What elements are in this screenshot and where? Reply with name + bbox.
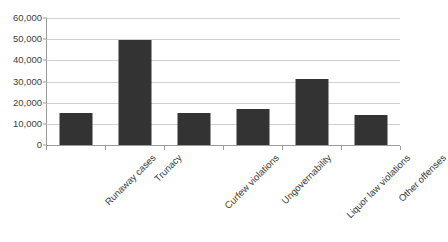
- y-axis-tick-labels: 010,00020,00030,00040,00050,00060,000: [0, 0, 42, 242]
- bar-slot: [223, 18, 282, 145]
- x-axis-category-label: Liquor law violations: [344, 152, 412, 220]
- y-axis-tick-label: 30,000: [2, 77, 42, 87]
- x-axis-tick-marks: [46, 146, 400, 151]
- bar: [295, 79, 328, 145]
- x-axis-category-label: Curfew violations: [222, 152, 281, 211]
- y-axis-tick-label: 20,000: [2, 98, 42, 108]
- x-axis-tick-mark: [282, 146, 283, 150]
- y-axis-tick-mark: [43, 102, 47, 103]
- x-axis-tick-mark: [341, 146, 342, 150]
- y-axis-tick-mark: [43, 39, 47, 40]
- y-axis-tick-mark: [43, 81, 47, 82]
- y-axis-tick-mark: [43, 60, 47, 61]
- x-axis-category-label-text: Liquor law violations: [344, 152, 412, 220]
- bars-layer: [46, 18, 400, 145]
- x-axis-category-label-text: Ungovernability: [279, 152, 333, 206]
- x-axis-tick-mark: [223, 146, 224, 150]
- x-axis-category-label: Trunacy: [152, 152, 184, 184]
- bar-slot: [282, 18, 341, 145]
- y-axis-tick-label: 50,000: [2, 34, 42, 44]
- bar: [59, 113, 92, 145]
- bar: [354, 115, 387, 145]
- bar-slot: [105, 18, 164, 145]
- y-axis-tick-mark: [43, 123, 47, 124]
- bar: [236, 109, 269, 145]
- bar-slot: [341, 18, 400, 145]
- y-axis-tick-mark: [43, 145, 47, 146]
- x-axis-tick-mark: [105, 146, 106, 150]
- y-axis-tick-label: 10,000: [2, 119, 42, 129]
- x-axis-tick-mark: [46, 146, 47, 150]
- x-axis-category-label-text: Runaway cases: [102, 152, 157, 207]
- bar: [177, 113, 210, 145]
- y-axis-tick-label: 0: [2, 140, 42, 150]
- y-axis-tick-label: 60,000: [2, 13, 42, 23]
- bar-slot: [46, 18, 105, 145]
- x-axis-tick-mark: [164, 146, 165, 150]
- bar: [118, 40, 151, 145]
- x-axis-tick-mark: [400, 146, 401, 150]
- y-axis-tick-label: 40,000: [2, 56, 42, 66]
- x-axis-category-label-text: Curfew violations: [222, 152, 281, 211]
- x-axis-category-label-text: Trunacy: [152, 152, 184, 184]
- x-axis-category-label: Ungovernability: [279, 152, 333, 206]
- y-axis-tick-mark: [43, 18, 47, 19]
- x-axis-category-labels: Runaway casesTrunacyCurfew violationsUng…: [46, 152, 400, 242]
- bar-slot: [164, 18, 223, 145]
- x-axis-category-label: Runaway cases: [102, 152, 157, 207]
